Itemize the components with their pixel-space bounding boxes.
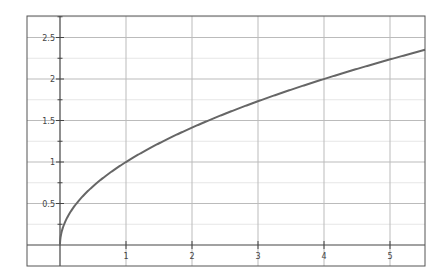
y-tick-label: 2 <box>50 75 55 84</box>
chart-plot: 0.511.522.512345 <box>0 0 446 280</box>
y-tick-label: 1.5 <box>42 117 55 126</box>
tick-labels: 0.511.522.512345 <box>42 34 392 262</box>
y-tick-label: 0.5 <box>42 200 55 209</box>
x-tick-label: 1 <box>123 252 128 261</box>
y-tick-label: 2.5 <box>42 34 55 43</box>
x-tick-label: 4 <box>321 252 326 261</box>
x-tick-label: 2 <box>189 252 194 261</box>
x-tick-label: 5 <box>387 252 392 261</box>
y-tick-label: 1 <box>50 158 55 167</box>
x-tick-label: 3 <box>255 252 260 261</box>
axis-ticks <box>56 17 390 249</box>
